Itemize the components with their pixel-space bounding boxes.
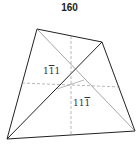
face-label-1-1bar-1: 111 (43, 66, 60, 76)
crystal-diagram (0, 0, 139, 149)
diagonal-main (7, 42, 102, 139)
face-label-1-1-1bar: 111 (73, 98, 90, 108)
diagonal-secondary (37, 29, 135, 131)
